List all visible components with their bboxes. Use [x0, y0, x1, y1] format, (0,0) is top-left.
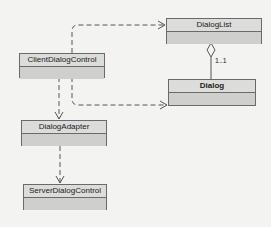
aggregation-diamond-icon [207, 43, 215, 57]
class-dialoglist[interactable]: DialogList [166, 18, 262, 44]
class-name: DialogList [167, 19, 261, 32]
class-serverdialogcontrol[interactable]: ServerDialogControl [23, 184, 107, 210]
class-attributes-compartment [24, 198, 106, 210]
class-dialog[interactable]: Dialog [168, 79, 256, 106]
class-name: DialogAdapter [22, 121, 106, 134]
class-attributes-compartment [167, 32, 261, 44]
class-attributes-compartment [20, 67, 104, 79]
class-dialogadapter[interactable]: DialogAdapter [21, 120, 107, 146]
dependency-client-to-dialoglist [72, 25, 165, 53]
dependency-client-to-dialog [72, 77, 167, 105]
uml-diagram-canvas: 1..1 DialogList ClientDialogControl Dial… [0, 0, 271, 227]
class-attributes-compartment [22, 134, 106, 146]
class-clientdialogcontrol[interactable]: ClientDialogControl [19, 53, 105, 78]
multiplicity-label: 1..1 [215, 57, 227, 64]
class-attributes-compartment [169, 93, 255, 105]
class-name: ServerDialogControl [24, 185, 106, 198]
class-name: Dialog [169, 80, 255, 93]
class-name: ClientDialogControl [20, 54, 104, 67]
